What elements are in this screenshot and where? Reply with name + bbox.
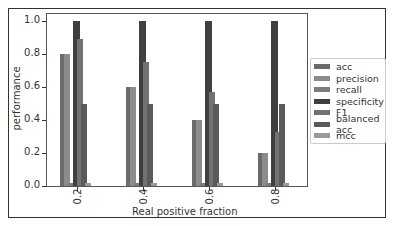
legend-item: precision [314, 73, 382, 85]
bar-mcc [151, 183, 158, 186]
legend-swatch [314, 122, 330, 127]
bar-balanced-acc [279, 104, 286, 187]
y-tick-label: 0.2 [14, 146, 40, 157]
plot-area [46, 13, 308, 187]
legend-label: recall [336, 84, 362, 95]
x-tick-label: 0.6 [204, 189, 215, 205]
bar-balanced-acc [213, 104, 220, 187]
legend-swatch [314, 110, 330, 115]
legend-swatch [314, 76, 330, 81]
legend-item: balanced acc [314, 119, 382, 131]
bar-precision [262, 153, 269, 186]
x-axis-label: Real positive fraction [132, 206, 238, 217]
legend-item: specificity [314, 96, 382, 108]
y-tick-label: 0.6 [14, 80, 40, 91]
legend-label: acc [336, 61, 352, 72]
legend-swatch [314, 64, 330, 69]
legend-swatch [314, 99, 330, 104]
legend-swatch [314, 133, 330, 138]
legend-item: acc [314, 61, 382, 73]
y-tick-label: 0.8 [14, 47, 40, 58]
legend-label: specificity [336, 96, 384, 107]
legend-label: mcc [336, 130, 356, 141]
y-tick-label: 1.0 [14, 14, 40, 25]
bar-mcc [217, 183, 224, 186]
bar-mcc [85, 183, 92, 186]
x-tick-label: 0.2 [72, 189, 83, 205]
bar-precision [196, 120, 203, 186]
bar-precision [130, 87, 137, 186]
legend-swatch [314, 87, 330, 92]
legend-item: recall [314, 84, 382, 96]
legend-label: precision [336, 73, 379, 84]
legend: accprecisionrecallspecificityF1balanced … [310, 58, 386, 144]
y-tick-label: 0.0 [14, 179, 40, 190]
x-tick-label: 0.8 [270, 189, 281, 205]
bar-balanced-acc [81, 104, 88, 187]
bar-precision [64, 54, 71, 186]
bar-balanced-acc [147, 104, 154, 187]
bar-mcc [283, 183, 290, 186]
y-tick-label: 0.4 [14, 113, 40, 124]
x-tick-label: 0.4 [138, 189, 149, 205]
